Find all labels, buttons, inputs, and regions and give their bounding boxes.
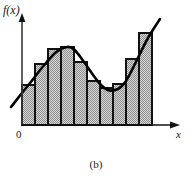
bar <box>87 81 100 125</box>
figure-caption: (b) <box>0 159 192 170</box>
bar <box>74 62 87 125</box>
y-axis-label: f(x) <box>3 4 20 16</box>
bar <box>100 88 113 125</box>
origin-label: 0 <box>16 129 22 140</box>
riemann-sum-plot <box>0 0 192 180</box>
bar <box>48 49 61 125</box>
bar <box>61 47 74 125</box>
riemann-sum-figure: f(x) 0 x (b) <box>0 0 192 180</box>
bars-group <box>22 33 152 125</box>
x-axis-label: x <box>176 129 181 140</box>
bar <box>139 33 152 125</box>
